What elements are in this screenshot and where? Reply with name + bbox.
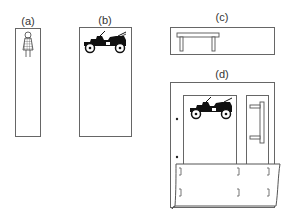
person-figure-icon <box>20 31 36 59</box>
edge-dots-icon <box>174 117 180 162</box>
vintage-car-icon <box>82 30 128 56</box>
panel-c-label: (c) <box>207 12 237 23</box>
panel-d-label: (d) <box>207 69 237 80</box>
panel-b-label: (b) <box>90 15 120 26</box>
table-icon <box>177 33 221 53</box>
panel-a-label: (a) <box>13 16 43 27</box>
vintage-car-icon <box>188 96 234 122</box>
door-handle-icon <box>250 102 266 144</box>
curled-sheet-icon <box>172 162 284 210</box>
